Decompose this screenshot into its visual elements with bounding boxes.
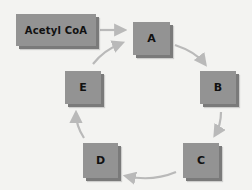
node-d: D	[83, 143, 118, 178]
node-d-label: D	[96, 154, 105, 167]
arrow-c-to-d	[126, 172, 176, 178]
node-acetyl-coa: Acetyl CoA	[16, 14, 96, 46]
node-e-label: E	[79, 81, 87, 94]
node-a: A	[133, 22, 170, 55]
node-a-label: A	[147, 32, 156, 45]
arrow-e-to-a	[93, 43, 122, 64]
node-b: B	[200, 71, 236, 104]
arrow-a-to-b	[175, 45, 205, 64]
node-e: E	[65, 71, 101, 104]
arrow-d-to-e	[76, 113, 84, 138]
cycle-diagram: Acetyl CoA A B C D E	[0, 0, 252, 190]
node-b-label: B	[214, 81, 222, 94]
node-c-label: C	[197, 154, 205, 167]
arrow-b-to-c	[215, 112, 221, 135]
node-c: C	[183, 143, 219, 178]
node-acetyl-coa-label: Acetyl CoA	[25, 25, 88, 36]
